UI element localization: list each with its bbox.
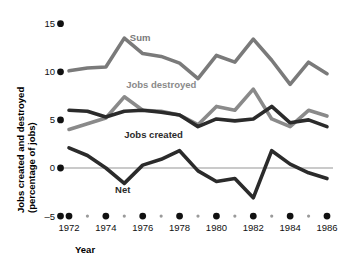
series-label-jobs-destroyed: Jobs destroyed [126,79,196,90]
x-axis-major-tick-dot [250,213,257,220]
x-axis-major-tick-dot [213,213,220,220]
x-axis-tick-label: 1984 [280,222,301,233]
series-label-sum: Sum [130,32,151,43]
x-axis-minor-tick-dot [196,215,199,218]
series-line-sum [69,38,327,84]
x-axis-minor-tick-dot [160,215,163,218]
x-axis-major-tick-dot [176,213,183,220]
y-axis-title: Jobs created and destroyed (percentage o… [15,87,37,213]
x-axis-minor-tick-dot [270,215,273,218]
y-axis-tick-dot [57,20,64,27]
x-axis-major-tick-dot [324,213,331,220]
y-axis-tick-label: 15 [44,18,55,29]
x-axis-minor-tick-dot [123,215,126,218]
x-axis-tick-label: 1978 [169,222,190,233]
y-axis-tick-dot [57,117,64,124]
x-axis-ticks [66,213,331,220]
series-line-net [69,148,327,198]
y-axis-tick-label: 0 [50,162,55,173]
series-label-net: Net [115,184,131,195]
x-axis-tick-label: 1980 [206,222,227,233]
y-axis-tick-dot [57,213,64,220]
x-axis-tick-label: 1972 [58,222,79,233]
x-axis-minor-tick-dot [233,215,236,218]
y-axis-title-line-1: Jobs created and destroyed [15,87,26,213]
x-axis-tick-label: 1976 [132,222,153,233]
series-lines [69,38,327,198]
x-axis-tick-label: 1974 [95,222,116,233]
x-axis-title: Year [75,244,95,255]
series-label-jobs-created: Jobs created [124,129,183,140]
x-axis-minor-tick-dot [86,215,89,218]
x-axis-tick-labels: 19721974197619781980198219841986 [58,222,337,233]
y-axis-ticks: –5051015 [44,18,63,221]
y-axis-title-line-2: (percentage of jobs) [26,122,37,213]
y-axis-tick-label: 10 [44,66,55,77]
x-axis-major-tick-dot [287,213,294,220]
y-axis-tick-dot [57,165,64,172]
y-axis-tick-dot [57,68,64,75]
x-axis-minor-tick-dot [307,215,310,218]
x-axis-tick-label: 1982 [243,222,264,233]
x-axis-tick-label: 1986 [316,222,337,233]
chart-canvas: –5051015 SumJobs destroyedJobs createdNe… [0,0,340,261]
x-axis-major-tick-dot [66,213,73,220]
y-axis-tick-label: –5 [44,211,55,222]
x-axis-major-tick-dot [139,213,146,220]
jobs-created-destroyed-chart: –5051015 SumJobs destroyedJobs createdNe… [0,0,340,261]
y-axis-tick-label: 5 [50,114,55,125]
x-axis-major-tick-dot [102,213,109,220]
